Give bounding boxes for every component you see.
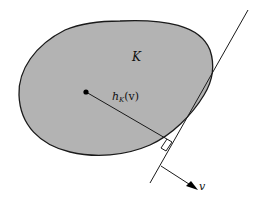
label-body-k: K (132, 51, 141, 63)
direction-label-text: v (199, 180, 205, 193)
center-point (83, 89, 88, 94)
support-subscript: K (119, 96, 124, 104)
diagram-canvas: K hK(v) v (0, 0, 259, 199)
convex-body (19, 21, 213, 156)
label-direction-v: v (199, 181, 205, 192)
label-support-function: hK(v) (112, 91, 139, 102)
direction-arrow-shaft (161, 166, 192, 186)
arrowhead-icon (186, 181, 198, 190)
body-label-text: K (132, 50, 141, 64)
support-arg-text: (v) (124, 90, 139, 103)
